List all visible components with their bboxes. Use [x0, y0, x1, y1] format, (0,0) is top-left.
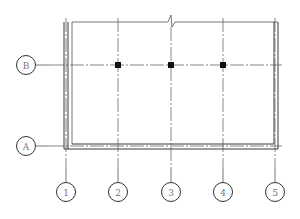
grid-bubble-A: A	[17, 137, 36, 156]
grid-bubble-2: 2	[109, 183, 128, 202]
grid-label-2: 2	[115, 188, 121, 198]
column-B3	[168, 62, 174, 68]
grid-bubble-5: 5	[266, 183, 285, 202]
column-B4	[220, 62, 226, 68]
structural-grid-drawing: B A 1 2 3 4 5	[0, 0, 300, 219]
break-line-icon	[168, 15, 175, 27]
grid-bubble-1: 1	[57, 183, 76, 202]
grid-label-B: B	[23, 61, 30, 71]
grid-label-A: A	[22, 142, 30, 152]
right-wall	[274, 22, 278, 149]
top-edge-with-break	[72, 15, 278, 27]
column-B2	[115, 62, 121, 68]
grid-label-1: 1	[63, 188, 69, 198]
grid-label-5: 5	[272, 188, 278, 198]
grid-label-4: 4	[220, 188, 226, 198]
grid-bubble-3: 3	[162, 183, 181, 202]
grid-bubble-B: B	[17, 56, 36, 75]
grid-bubble-4: 4	[214, 183, 233, 202]
grid-label-3: 3	[168, 188, 174, 198]
left-wall	[64, 22, 72, 149]
